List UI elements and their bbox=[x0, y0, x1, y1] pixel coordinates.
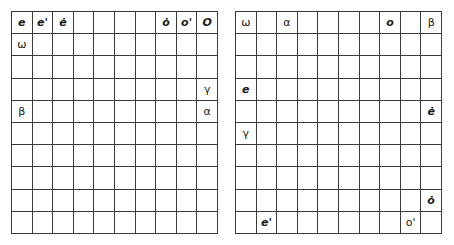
grid-cell bbox=[94, 167, 115, 189]
grid-cell bbox=[33, 34, 54, 56]
grid-cell bbox=[94, 123, 115, 145]
grid-cell bbox=[380, 34, 401, 56]
grid-cell bbox=[318, 145, 339, 167]
grid-cell bbox=[257, 190, 278, 212]
grid-cell bbox=[236, 145, 257, 167]
grid-cell bbox=[12, 212, 33, 234]
grid-cell bbox=[421, 212, 442, 234]
grid-cell bbox=[115, 167, 136, 189]
grid-cell bbox=[94, 190, 115, 212]
grid-cell bbox=[94, 79, 115, 101]
right-grid: ωαoβeėγȯe'o' bbox=[235, 11, 442, 234]
grid-cell bbox=[401, 101, 422, 123]
grid-cell bbox=[136, 101, 157, 123]
grid-cell-symbol: ė bbox=[53, 12, 74, 34]
grid-cell bbox=[136, 34, 157, 56]
grid-cell bbox=[380, 56, 401, 78]
grid-cell bbox=[339, 34, 360, 56]
grid-cell bbox=[401, 190, 422, 212]
grid-cell bbox=[136, 56, 157, 78]
grid-cell bbox=[257, 123, 278, 145]
grid-cell bbox=[318, 101, 339, 123]
grid-cell bbox=[156, 56, 177, 78]
grid-cell bbox=[115, 101, 136, 123]
grid-cell bbox=[277, 79, 298, 101]
grid-cell bbox=[236, 56, 257, 78]
grid-cell bbox=[339, 79, 360, 101]
grid-cell bbox=[421, 123, 442, 145]
grid-cell bbox=[136, 79, 157, 101]
grid-cell bbox=[339, 123, 360, 145]
grid-cell bbox=[257, 79, 278, 101]
grid-cell bbox=[156, 123, 177, 145]
grid-cell bbox=[53, 79, 74, 101]
grid-cell bbox=[298, 101, 319, 123]
grid-cell bbox=[318, 190, 339, 212]
grid-cell bbox=[33, 123, 54, 145]
grid-cell bbox=[360, 190, 381, 212]
grid-cell bbox=[421, 145, 442, 167]
grid-cell bbox=[136, 212, 157, 234]
grid-cell bbox=[298, 212, 319, 234]
grid-cell bbox=[236, 34, 257, 56]
grid-cell bbox=[53, 34, 74, 56]
grid-cell bbox=[115, 123, 136, 145]
grid-cell bbox=[277, 145, 298, 167]
grid-cell bbox=[257, 12, 278, 34]
grid-cell bbox=[53, 167, 74, 189]
grid-cell bbox=[380, 123, 401, 145]
grid-cell-symbol: e' bbox=[33, 12, 54, 34]
grid-cell-symbol: γ bbox=[197, 79, 218, 101]
grid-cell-symbol: α bbox=[277, 12, 298, 34]
grid-cell bbox=[74, 12, 95, 34]
grid-cell-symbol: o' bbox=[401, 212, 422, 234]
grid-cell bbox=[421, 56, 442, 78]
grid-cell bbox=[136, 167, 157, 189]
grid-cell bbox=[156, 145, 177, 167]
grid-cell-symbol: ω bbox=[236, 12, 257, 34]
grid-cell-symbol: ȯ bbox=[156, 12, 177, 34]
grid-cell bbox=[12, 123, 33, 145]
grid-cell bbox=[421, 167, 442, 189]
grid-cell bbox=[136, 123, 157, 145]
grid-cell bbox=[115, 190, 136, 212]
grid-cell bbox=[33, 79, 54, 101]
grid-cell bbox=[339, 101, 360, 123]
grid-cell bbox=[12, 190, 33, 212]
grid-cell bbox=[360, 212, 381, 234]
grid-cell bbox=[360, 12, 381, 34]
grid-cell bbox=[360, 101, 381, 123]
grid-cell bbox=[156, 190, 177, 212]
left-grid: ee'ėȯo'Oωγβα bbox=[11, 11, 218, 234]
grid-cell bbox=[236, 212, 257, 234]
grid-cell-symbol: O bbox=[197, 12, 218, 34]
grid-cell bbox=[236, 101, 257, 123]
grid-cell bbox=[53, 190, 74, 212]
grid-cell bbox=[53, 101, 74, 123]
grid-cell bbox=[318, 123, 339, 145]
grid-cell-symbol: β bbox=[421, 12, 442, 34]
grid-cell bbox=[177, 56, 198, 78]
grid-cell bbox=[298, 190, 319, 212]
grid-cell bbox=[380, 212, 401, 234]
grid-cell bbox=[177, 145, 198, 167]
grid-cell bbox=[115, 212, 136, 234]
grid-cell bbox=[94, 145, 115, 167]
grid-cell bbox=[277, 101, 298, 123]
grid-cell-symbol: e' bbox=[257, 212, 278, 234]
grid-cell-symbol: ω bbox=[12, 34, 33, 56]
grid-cell-symbol: ė bbox=[421, 101, 442, 123]
grid-cell bbox=[177, 190, 198, 212]
grid-cell bbox=[136, 12, 157, 34]
grid-cell bbox=[33, 167, 54, 189]
grid-cell bbox=[339, 212, 360, 234]
grid-cell-symbol: ȯ bbox=[421, 190, 442, 212]
grid-cell bbox=[12, 167, 33, 189]
grid-cell bbox=[94, 101, 115, 123]
grid-cell bbox=[277, 34, 298, 56]
grid-cell bbox=[401, 145, 422, 167]
grid-cell bbox=[339, 145, 360, 167]
grid-cell bbox=[298, 145, 319, 167]
grid-cell bbox=[74, 167, 95, 189]
grid-cell bbox=[156, 79, 177, 101]
